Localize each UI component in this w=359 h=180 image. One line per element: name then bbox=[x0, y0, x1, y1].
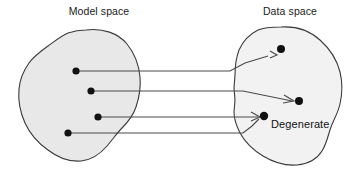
model-space-title: Model space bbox=[69, 5, 130, 17]
data-point-2 bbox=[295, 97, 303, 105]
data-space-region bbox=[234, 27, 342, 165]
data-point-degenerate bbox=[260, 112, 268, 120]
model-point-3 bbox=[94, 113, 101, 120]
mapping-diagram: Model space Data space Degenerate bbox=[0, 0, 359, 180]
data-space-title: Data space bbox=[263, 5, 317, 17]
data-point-1 bbox=[277, 45, 285, 53]
model-point-2 bbox=[87, 87, 94, 94]
degenerate-label: Degenerate bbox=[271, 118, 330, 130]
model-point-4 bbox=[64, 129, 71, 136]
model-point-1 bbox=[72, 67, 79, 74]
model-space-region bbox=[19, 30, 141, 162]
